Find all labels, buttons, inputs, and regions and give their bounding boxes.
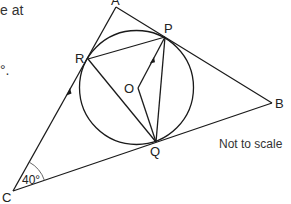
label-B: B bbox=[275, 96, 284, 111]
chord-RP bbox=[88, 37, 165, 59]
question-text-fragment-mid: °. bbox=[0, 62, 10, 78]
question-text-fragment-top: e at bbox=[0, 2, 23, 18]
label-C: C bbox=[2, 190, 11, 204]
label-P: P bbox=[164, 21, 173, 36]
circle bbox=[80, 31, 194, 145]
angle-C-value: 40° bbox=[22, 173, 40, 187]
line-CA bbox=[13, 7, 116, 191]
geometry-diagram: e at °. A P R O Q B C 40° Not to scale bbox=[0, 0, 291, 204]
label-R: R bbox=[75, 51, 84, 66]
label-O: O bbox=[124, 81, 134, 96]
label-A: A bbox=[111, 0, 120, 8]
label-Q: Q bbox=[150, 144, 160, 159]
radius-OQ bbox=[138, 88, 156, 142]
not-to-scale-note: Not to scale bbox=[219, 137, 283, 151]
